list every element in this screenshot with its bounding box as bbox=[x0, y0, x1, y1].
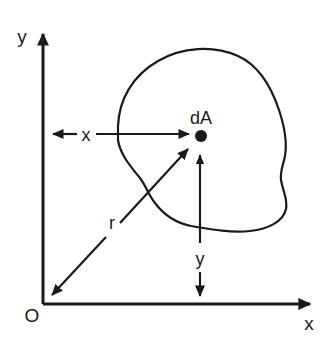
x-dimension-group: x bbox=[53, 125, 189, 145]
area-element-dot bbox=[195, 130, 207, 142]
axes-group bbox=[43, 34, 310, 304]
coordinate-diagram: r x y dA y x O bbox=[0, 0, 334, 354]
y-dimension-label: y bbox=[196, 249, 205, 269]
r-dimension-group: r bbox=[52, 149, 188, 295]
area-element-point-group: dA bbox=[190, 108, 212, 142]
r-dimension-line-upper bbox=[120, 149, 188, 223]
x-axis-label: x bbox=[304, 313, 314, 334]
x-dimension-label: x bbox=[82, 125, 91, 145]
r-dimension-label: r bbox=[109, 213, 115, 233]
origin-label: O bbox=[25, 305, 40, 326]
r-dimension-line-lower bbox=[52, 237, 106, 295]
area-element-label: dA bbox=[190, 108, 212, 128]
diagram-canvas: r x y dA y x O bbox=[0, 0, 334, 354]
axis-labels-group: y x O bbox=[17, 26, 314, 334]
y-dimension-group: y bbox=[196, 155, 205, 296]
y-axis-label: y bbox=[17, 26, 27, 47]
